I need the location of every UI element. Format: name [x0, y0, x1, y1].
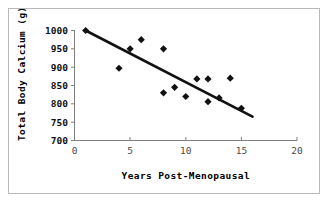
- x-tick-label: 5: [127, 145, 133, 156]
- x-tick-label: 0: [72, 145, 78, 156]
- y-axis-ticks: 1000 950 900 850 800 750 700: [45, 25, 74, 146]
- data-point: [182, 93, 189, 100]
- data-point: [204, 98, 211, 105]
- data-point: [160, 45, 167, 52]
- chart-frame: Total Body Calcium (g) 1000 950 900 850 …: [8, 8, 320, 194]
- y-tick-label: 800: [51, 98, 68, 109]
- data-point: [138, 36, 145, 43]
- x-tick-label: 15: [236, 145, 247, 156]
- y-tick-label: 950: [51, 43, 68, 54]
- data-point: [227, 75, 234, 82]
- scatter-plot: Total Body Calcium (g) 1000 950 900 850 …: [9, 9, 321, 195]
- y-tick-label: 850: [51, 80, 68, 91]
- y-tick-label: 750: [51, 117, 68, 128]
- y-tick-label: 700: [51, 135, 68, 146]
- x-tick-label: 20: [291, 145, 303, 156]
- trend-line: [86, 31, 253, 117]
- data-point: [204, 75, 211, 82]
- data-point: [193, 75, 200, 82]
- data-point: [171, 84, 178, 91]
- data-point: [115, 65, 122, 72]
- y-axis-title: Total Body Calcium (g): [16, 9, 27, 141]
- x-axis-title: Years Post-Menopausal: [122, 170, 251, 181]
- x-tick-label: 10: [180, 145, 192, 156]
- x-axis-ticks: 0 5 10 15 20: [72, 137, 303, 156]
- y-tick-label: 900: [51, 62, 68, 73]
- data-point: [160, 89, 167, 96]
- y-tick-label: 1000: [45, 25, 68, 36]
